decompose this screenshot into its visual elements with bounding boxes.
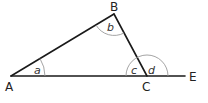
vertex-label-a: A bbox=[5, 80, 14, 94]
angle-label-b: b bbox=[107, 21, 114, 34]
vertex-label-b: B bbox=[110, 0, 118, 14]
vertex-label-e: E bbox=[189, 70, 197, 84]
angle-label-c: c bbox=[131, 64, 137, 77]
triangle-diagram: A B C E a b c d bbox=[0, 0, 208, 103]
vertex-label-c: C bbox=[142, 80, 150, 94]
angle-a-arc bbox=[40, 59, 45, 77]
angle-label-d: d bbox=[148, 64, 156, 77]
angle-label-a: a bbox=[34, 64, 41, 77]
segment-ab bbox=[11, 14, 114, 76]
